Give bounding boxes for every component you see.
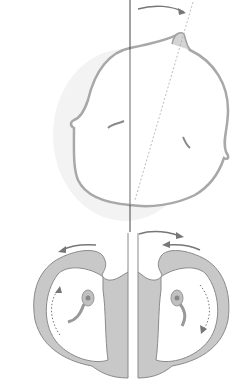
arrowhead-icon <box>162 241 170 248</box>
rotation-arrow-top <box>138 6 184 12</box>
arrowhead-icon <box>176 232 184 239</box>
left-curve-arrow <box>62 245 96 250</box>
right-top-arrow <box>139 232 180 236</box>
right-curve-arrow <box>166 245 200 250</box>
left-nucleus-dot <box>86 296 91 301</box>
right-nucleus-dot <box>175 296 180 301</box>
arrowhead-icon <box>178 8 186 15</box>
arrowhead-icon <box>58 246 66 253</box>
anatomy-diagram <box>0 0 249 391</box>
diagram-canvas <box>0 0 249 391</box>
